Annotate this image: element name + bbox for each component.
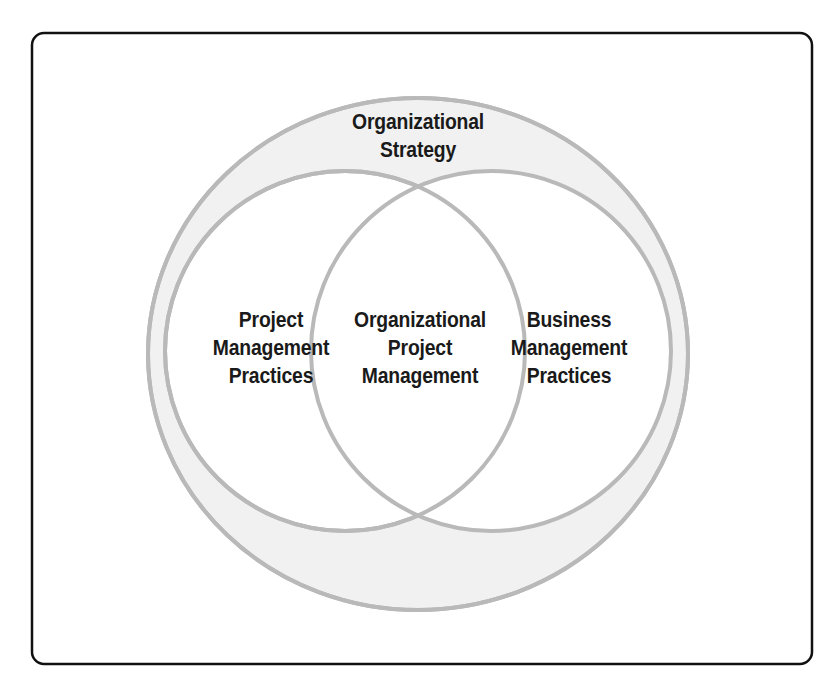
venn-diagram-figure: Organizational Strategy Project Manageme…: [0, 0, 836, 687]
label-organizational-strategy: Organizational Strategy: [295, 108, 541, 164]
label-business-management-practices: Business Management Practices: [485, 306, 652, 390]
label-project-management-practices: Project Management Practices: [187, 306, 354, 390]
label-organizational-project-management: Organizational Project Management: [336, 306, 503, 390]
